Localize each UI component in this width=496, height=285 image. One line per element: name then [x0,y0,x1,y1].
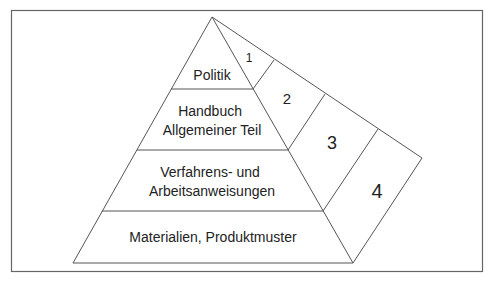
segment-2-label: 2 [283,90,291,107]
segment-3-label: 3 [327,133,337,153]
layer-materialien-label: Materialien, Produktmuster [129,229,297,245]
segment-4-label: 4 [371,180,382,202]
layer-politik-label: Politik [193,67,231,83]
pyramid-diagram: Politik Handbuch Allgemeiner Teil Verfah… [0,0,496,285]
segment-1-label: 1 [246,51,253,65]
